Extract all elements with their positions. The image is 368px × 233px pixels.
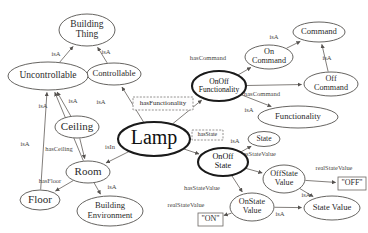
edge-label-e-lamp-controllable: isA xyxy=(96,98,105,105)
edge-label-e-controllable-buildingthing: isA xyxy=(101,48,110,55)
node-label-controllable: Controllable xyxy=(93,68,136,78)
node-label-command: Command xyxy=(301,26,338,36)
node-label-building-thing: Thing xyxy=(76,29,99,39)
node-building-environment[interactable]: BuildingEnvironment xyxy=(77,196,143,226)
edge-label-e-offstatevalue-literal: realStateValue xyxy=(316,164,353,171)
edge-e-room-buildingenv xyxy=(94,183,100,194)
node-label-offstate-value: Value xyxy=(275,178,294,187)
edge-e-ceiling-room xyxy=(80,138,85,158)
node-label-lamp: Lamp xyxy=(131,126,178,149)
node-label-onoff-state: State xyxy=(215,161,232,170)
edge-label-e-onofffunc-functionality: isA xyxy=(244,106,253,113)
edge-label-e-room-uncontrollable: isA xyxy=(68,97,77,104)
edge-label-e-room-buildingenv: isA xyxy=(107,183,116,190)
edge-label-e-ceiling-room: hasCeiling xyxy=(45,145,73,152)
edge-e-uncontrollable-buildingthing xyxy=(60,46,73,62)
node-lamp[interactable]: Lamp xyxy=(118,122,190,156)
node-label-on-command: On xyxy=(264,47,274,56)
node-room[interactable]: Room xyxy=(66,161,110,183)
literal-literal-off[interactable]: "OFF" xyxy=(338,177,366,190)
edge-label-e-onoffstate-state: isA xyxy=(230,137,239,144)
property-has-functionality-box[interactable]: hasFunctionality xyxy=(133,97,193,110)
node-controllable[interactable]: Controllable xyxy=(87,63,141,85)
node-label-onoff-state: OnOff xyxy=(212,152,233,161)
node-label-floor: Floor xyxy=(28,193,52,205)
node-label-ceiling: Ceiling xyxy=(61,120,94,132)
edge-e-lamp-room xyxy=(106,152,129,163)
node-offstate-value[interactable]: OffStateValue xyxy=(263,165,305,193)
node-label-onoff-functionality: Functionality xyxy=(199,85,240,94)
node-floor[interactable]: Floor xyxy=(20,190,60,210)
edge-label-e-oncommand-command: isA xyxy=(269,33,278,40)
node-onstate-value[interactable]: OnStateValue xyxy=(230,193,274,221)
node-label-offstate-value: OffState xyxy=(270,169,298,178)
node-label-room: Room xyxy=(75,165,102,177)
property-has-state-box[interactable]: hasState xyxy=(192,130,223,140)
node-label-functionality: Functionality xyxy=(275,111,322,121)
edge-label-e-ceiling-uncontrollable: isA xyxy=(38,102,47,109)
literal-label-literal-on: "ON" xyxy=(201,214,219,223)
edge-e-oncommand-command xyxy=(286,41,300,48)
node-state-value[interactable]: State Value xyxy=(304,196,360,220)
node-label-onstate-value: OnState xyxy=(239,197,266,206)
property-label-has-functionality-box: hasFunctionality xyxy=(140,99,187,107)
node-label-state-value: State Value xyxy=(313,202,352,212)
node-label-on-command: Command xyxy=(252,56,286,65)
property-label-has-state-box: hasState xyxy=(198,131,218,137)
edge-e-onofffunc-oncommand xyxy=(238,68,251,75)
node-label-off-command: Command xyxy=(314,83,348,92)
node-uncontrollable[interactable]: Uncontrollable xyxy=(8,62,88,90)
node-functionality[interactable]: Functionality xyxy=(258,106,338,128)
node-onoff-state[interactable]: OnOffState xyxy=(198,148,248,176)
node-off-command[interactable]: OffCommand xyxy=(304,72,358,96)
node-label-state: State xyxy=(256,134,272,143)
node-label-onstate-value: Value xyxy=(243,206,262,215)
node-label-uncontrollable: Uncontrollable xyxy=(20,70,77,80)
edge-label-e-onstatevalue-literal: realStateValue xyxy=(168,201,205,208)
edge-label-e-lamp-room: isIn xyxy=(105,143,116,150)
node-ceiling[interactable]: Ceiling xyxy=(55,116,99,138)
edge-label-e-floor-uncontrollable: isA xyxy=(20,140,29,147)
edge-e-onoffstate-onstatevalue xyxy=(232,176,242,192)
node-label-building-environment: Environment xyxy=(88,210,133,220)
edge-label-e-onofffunc-oncommand: hasCommand xyxy=(190,54,227,61)
literal-literal-on[interactable]: "ON" xyxy=(198,213,223,226)
ontology-graph-canvas: isAisAisAisAisAhasCeilinghasFloorisAisIn… xyxy=(0,0,368,233)
node-label-off-command: Off xyxy=(325,74,336,83)
edge-e-onstatevalue-literal xyxy=(224,213,232,215)
edge-label-e-onoffstate-onstatevalue: hasStateValue xyxy=(184,184,220,191)
edge-e-onoffstate-offstatevalue xyxy=(246,168,262,173)
edge-e-lamp-onoffstate xyxy=(184,149,199,154)
node-onoff-functionality[interactable]: OnOffFunctionality xyxy=(192,71,246,101)
node-state[interactable]: State xyxy=(248,132,280,147)
node-label-building-thing: Building xyxy=(70,19,104,29)
edge-label-e-uncontrollable-buildingthing: isA xyxy=(51,50,60,57)
node-building-thing[interactable]: BuildingThing xyxy=(59,14,115,46)
edge-label-e-offstatevalue-statevalue: isA xyxy=(301,191,310,198)
literal-label-literal-off: "OFF" xyxy=(341,178,362,187)
edge-label-e-onstatevalue-statevalue: isA xyxy=(275,210,284,217)
edge-e-onofffunc-offcommand xyxy=(246,85,301,86)
edge-label-e-onofffunc-offcommand: hasCommand xyxy=(244,90,281,97)
node-command[interactable]: Command xyxy=(293,22,345,42)
edge-e-offstatevalue-literal xyxy=(305,180,335,182)
node-on-command[interactable]: OnCommand xyxy=(245,45,293,69)
edge-label-e-room-floor: hasFloor xyxy=(39,177,62,184)
edge-label-e-offcommand-command: isA xyxy=(322,54,331,61)
